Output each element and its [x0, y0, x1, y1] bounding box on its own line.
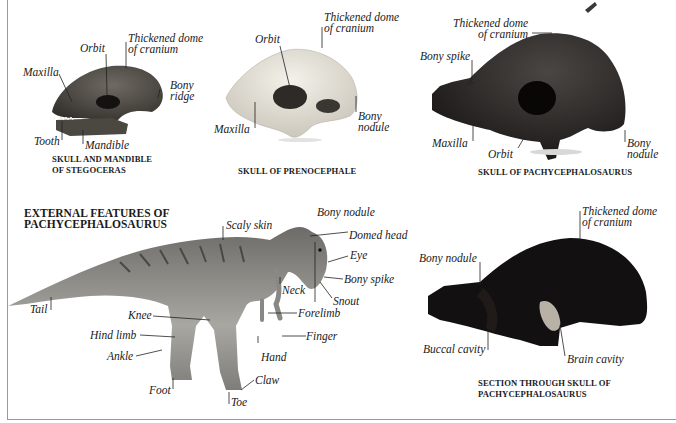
label-section-buccal-cavity: Buccal cavity	[423, 343, 485, 355]
label-steg-dome-2: of cranium	[128, 43, 178, 55]
label-steg-mandible: Mandible	[85, 139, 129, 151]
encyclopedia-page: Thickened dome of cranium Orbit Maxilla …	[0, 0, 676, 423]
pachycephalosaurus-body-image	[8, 227, 327, 390]
caption-pachy-skull: SKULL OF PACHYCEPHALOSAURUS	[478, 167, 632, 177]
label-ext-neck: Neck	[282, 284, 305, 296]
label-ext-hand: Hand	[261, 351, 287, 363]
label-steg-maxilla: Maxilla	[23, 66, 59, 78]
label-ext-foot: Foot	[149, 384, 171, 396]
label-ext-tail: Tail	[30, 303, 47, 315]
label-steg-orbit: Orbit	[80, 42, 105, 54]
label-ext-bony-nodule: Bony nodule	[317, 206, 375, 218]
label-pren-orbit: Orbit	[255, 33, 280, 45]
label-pachy-dome-2: of cranium	[478, 28, 528, 40]
label-pachy-maxilla: Maxilla	[432, 137, 468, 149]
label-ext-eye: Eye	[350, 249, 367, 261]
external-title-2: PACHYCEPHALOSAURUS	[24, 218, 167, 230]
label-ext-forelimb: Forelimb	[298, 307, 340, 319]
label-ext-toe: Toe	[231, 396, 247, 408]
label-pren-maxilla: Maxilla	[214, 123, 250, 135]
caption-section-2: PACHYCEPHALOSAURUS	[478, 389, 587, 399]
label-steg-tooth: Tooth	[34, 135, 60, 147]
label-ext-domed-head: Domed head	[349, 229, 407, 241]
caption-stegoceras-2: OF STEGOCERAS	[52, 165, 126, 175]
caption-stegoceras-1: SKULL AND MANDIBLE	[52, 154, 152, 164]
caption-prenocephale: SKULL OF PRENOCEPHALE	[238, 166, 356, 176]
label-pachy-nodule-2: nodule	[627, 148, 658, 160]
label-pachy-bony-spike: Bony spike	[420, 50, 470, 62]
label-ext-knee: Knee	[128, 309, 152, 321]
label-ext-bony-spike: Bony spike	[344, 273, 394, 285]
label-section-bony-nodule: Bony nodule	[419, 252, 477, 264]
label-section-brain-cavity: Brain cavity	[567, 353, 624, 365]
label-ext-hind-limb: Hind limb	[90, 329, 136, 341]
label-ext-snout: Snout	[333, 295, 359, 307]
label-section-dome-2: of cranium	[582, 216, 632, 228]
label-pren-nodule-2: nodule	[358, 121, 389, 133]
caption-section-1: SECTION THROUGH SKULL OF	[478, 378, 611, 388]
label-ext-scaly-skin: Scaly skin	[226, 219, 272, 231]
label-ext-claw: Claw	[255, 374, 279, 386]
label-pachy-orbit: Orbit	[488, 148, 513, 160]
label-steg-bony-ridge-2: ridge	[170, 90, 194, 102]
label-pren-dome-2: of cranium	[324, 22, 374, 34]
label-ext-ankle: Ankle	[107, 350, 133, 362]
stegoceras-skull-image	[52, 66, 163, 136]
label-ext-finger: Finger	[306, 330, 337, 342]
